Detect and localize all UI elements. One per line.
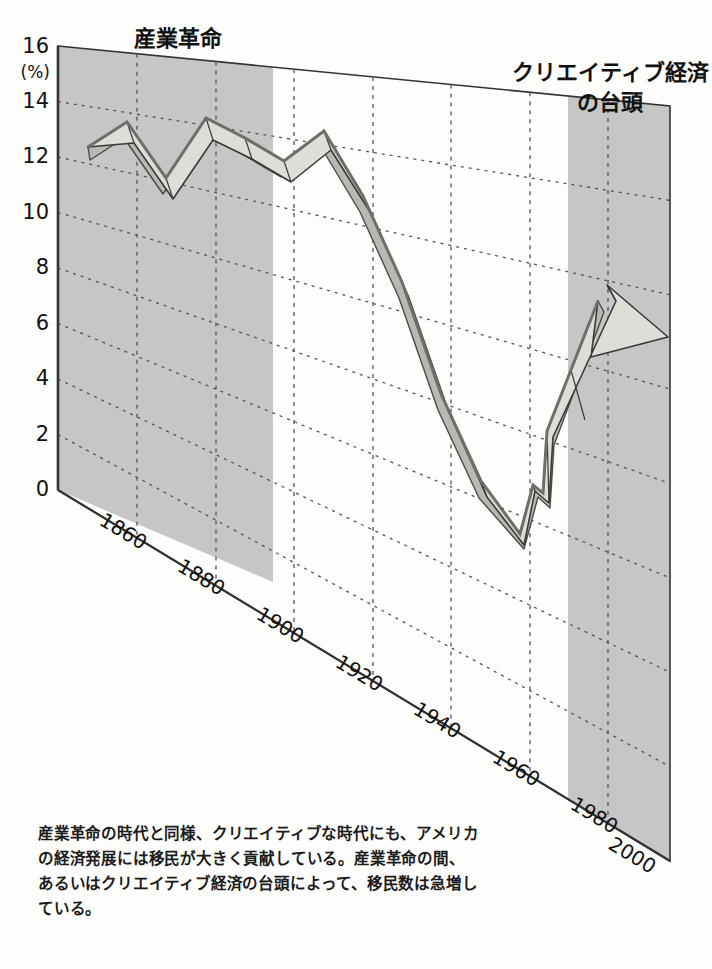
y-tick-4: 4	[36, 366, 49, 390]
y-tick-8: 8	[36, 255, 49, 279]
figure-root: 16 (%) 14 12 10 8 6 4 2 0 1860 1880 1900…	[0, 0, 712, 969]
y-tick-10: 10	[22, 200, 49, 224]
y-tick-0: 0	[36, 477, 49, 501]
industrial-revolution-band	[58, 46, 273, 582]
x-tick-1960: 1960	[488, 745, 544, 792]
caption-line-4: ている。	[38, 897, 508, 922]
y-axis-labels: 16 (%) 14 12 10 8 6 4 2 0	[21, 34, 50, 501]
industrial-revolution-label: 産業革命	[134, 26, 223, 51]
x-tick-1920: 1920	[331, 650, 387, 697]
caption-line-2: の経済発展には移民が大きく貢献している。産業革命の間、	[38, 847, 508, 872]
y-tick-2: 2	[36, 422, 49, 446]
x-tick-1880: 1880	[173, 554, 229, 601]
x-tick-1900: 1900	[252, 602, 308, 649]
y-axis-unit: (%)	[21, 62, 50, 82]
y-tick-12: 12	[22, 144, 49, 168]
y-tick-14: 14	[22, 89, 49, 113]
creative-economy-label-line1: クリエイティブ経済	[512, 60, 710, 85]
y-tick-16: 16	[22, 34, 49, 58]
y-tick-6: 6	[36, 311, 49, 335]
caption-line-1: 産業革命の時代と同様、クリエイティブな時代にも、アメリカ	[38, 822, 508, 847]
creative-economy-label-line2: の台頭	[577, 90, 644, 115]
figure-caption: 産業革命の時代と同様、クリエイティブな時代にも、アメリカ の経済発展には移民が大…	[38, 822, 508, 922]
caption-line-3: あるいはクリエイティブ経済の台頭によって、移民数は急増し	[38, 872, 508, 897]
x-tick-1940: 1940	[409, 697, 465, 744]
